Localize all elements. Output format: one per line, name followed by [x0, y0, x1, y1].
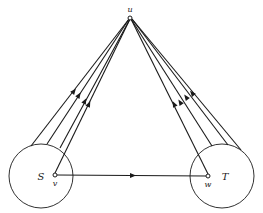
- arrow-icon: [75, 91, 82, 99]
- edges-s-to-u: [31, 19, 130, 173]
- arrowheads-left: [70, 87, 92, 108]
- label-set-t: T: [222, 171, 230, 182]
- network-flow-diagram: u v w S T: [0, 0, 263, 213]
- arrow-right-icon: [130, 173, 136, 178]
- arrow-icon: [85, 100, 92, 108]
- node-w: [206, 174, 210, 178]
- label-u: u: [127, 5, 132, 14]
- node-u: [128, 16, 132, 20]
- node-v: [53, 173, 57, 177]
- label-w: w: [205, 180, 212, 189]
- label-v: v: [53, 179, 58, 188]
- label-set-s: S: [38, 171, 45, 182]
